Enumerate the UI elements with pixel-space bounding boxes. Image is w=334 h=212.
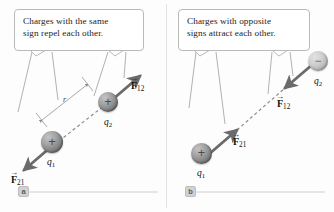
force-label-a-F12: →F12 [131, 80, 144, 93]
charge-b-q2: − [308, 51, 328, 71]
panel-b-marker-badge: b [185, 186, 196, 197]
charge-b-q1-label: q1 [197, 168, 205, 179]
charge-b-q2-label: q2 [314, 76, 322, 87]
panel-b: Charges with opposite signs attract each… [167, 0, 334, 212]
panel-a-marker-row: a [18, 186, 158, 200]
charge-a-q2: + [98, 92, 118, 112]
panel-b-marker-rule [196, 191, 325, 193]
panel-a-marker-rule [29, 191, 158, 193]
charge-b-q1: + [191, 143, 212, 164]
panel-b-marker-row: b [185, 186, 325, 200]
panel-a: Charges with the same sign repel each ot… [0, 0, 167, 212]
charge-a-q1-sign: + [48, 135, 56, 148]
panel-a-marker-badge: a [18, 186, 29, 197]
charge-a-q1: + [41, 131, 63, 153]
charge-a-q2-sign: + [104, 96, 111, 108]
distance-label-r: r [63, 95, 66, 104]
charge-a-q1-label: q1 [47, 157, 55, 168]
force-label-b-F12: →F12 [277, 98, 290, 111]
charge-b-q1-sign: + [198, 147, 205, 160]
charge-a-q2-label: q2 [104, 117, 112, 128]
panel-a-vectors [0, 0, 167, 212]
charge-b-q2-sign: − [314, 55, 321, 67]
panel-b-vectors [167, 0, 334, 212]
force-label-a-F21: →F21 [11, 174, 24, 187]
force-label-b-F21: →F21 [233, 136, 246, 149]
